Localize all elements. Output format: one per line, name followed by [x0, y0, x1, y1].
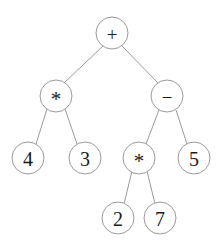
- node-label-seven: 7: [155, 208, 165, 230]
- edge-mul-left-to-three: [65, 109, 77, 144]
- node-minus-right: −: [151, 80, 183, 112]
- edge-root-to-mul-left: [64, 46, 103, 83]
- tree-edges: [36, 46, 187, 204]
- node-label-minus-right: −: [162, 87, 173, 108]
- node-label-mul-inner: *: [134, 149, 145, 173]
- node-mul-inner: *: [123, 142, 155, 174]
- edge-root-to-minus: [122, 46, 158, 83]
- node-two: 2: [102, 202, 134, 234]
- edge-minus-to-five: [176, 110, 187, 144]
- node-five: 5: [178, 142, 210, 174]
- edge-mul-left-to-four: [36, 109, 47, 144]
- node-seven: 7: [144, 202, 176, 234]
- expression-tree-canvas: + * − 4 3 *: [0, 0, 223, 244]
- edge-minus-to-mul-inner: [146, 110, 159, 144]
- edge-mul-inner-to-two: [124, 171, 132, 204]
- edge-mul-inner-to-seven: [147, 171, 155, 204]
- node-label-two: 2: [113, 208, 123, 230]
- node-label-four: 4: [23, 148, 33, 170]
- node-label-root-plus: +: [107, 24, 118, 45]
- node-four: 4: [12, 142, 44, 174]
- expression-tree-figure: + * − 4 3 *: [0, 0, 223, 244]
- node-label-mul-left: *: [51, 87, 62, 111]
- node-mul-left: *: [40, 80, 72, 112]
- node-label-three: 3: [80, 148, 90, 170]
- node-root-plus: +: [96, 17, 128, 49]
- node-three: 3: [69, 142, 101, 174]
- node-label-five: 5: [189, 148, 199, 170]
